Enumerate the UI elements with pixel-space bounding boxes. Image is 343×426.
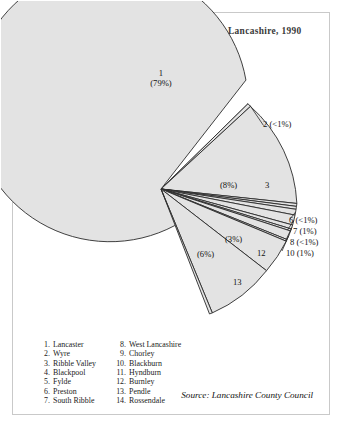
- pie-label-3-percent: (8%): [220, 181, 237, 191]
- legend-item-10: 10. Blackburn: [112, 359, 202, 368]
- legend-item-11: 11. Hyndburn: [112, 368, 202, 377]
- legend-item-6: 6. Preston: [36, 387, 114, 396]
- legend-item-8-label: West Lancashire: [129, 340, 181, 349]
- pie-chart-svg: [1, 1, 343, 341]
- legend-item-14-label: Rossendale: [129, 396, 165, 405]
- legend-item-6-label: Preston: [53, 387, 77, 396]
- legend-item-14-number: 14.: [112, 396, 129, 405]
- legend-item-11-number: 11.: [112, 368, 129, 377]
- legend-item-5-label: Fylde: [53, 377, 71, 386]
- legend-column-left: 1. Lancaster 2. Wyre 3. Ribble Valley 4.…: [36, 340, 114, 405]
- legend-item-1-number: 1.: [36, 340, 53, 349]
- pie-chart: 1 (79%) 2 (<1%) (8%) 3 6 (<1%) 7 (1%) 8 …: [1, 1, 343, 341]
- legend-item-5-number: 5.: [36, 377, 53, 386]
- legend-item-12-number: 12.: [112, 377, 129, 386]
- legend-item-3: 3. Ribble Valley: [36, 359, 114, 368]
- pie-label-8: 8 (<1%): [290, 238, 318, 248]
- pie-label-3-number: 3: [265, 181, 269, 191]
- legend-item-2-label: Wyre: [53, 349, 70, 358]
- pie-label-6: 6 (<1%): [289, 216, 317, 226]
- legend-item-13-number: 13.: [112, 387, 129, 396]
- legend-item-3-label: Ribble Valley: [53, 359, 96, 368]
- pie-slices: [1, 1, 297, 314]
- legend-item-9: 9. Chorley: [112, 349, 202, 358]
- legend-item-7-label: South Ribble: [53, 396, 94, 405]
- legend-item-11-label: Hyndburn: [129, 368, 161, 377]
- pie-label-13-percent: (6%): [197, 250, 214, 260]
- pie-label-12-number: 12: [257, 249, 266, 259]
- legend-item-10-label: Blackburn: [129, 359, 162, 368]
- legend-item-1-label: Lancaster: [53, 340, 84, 349]
- legend-item-2: 2. Wyre: [36, 349, 114, 358]
- pie-label-12-percent: (3%): [225, 235, 242, 245]
- legend-item-8: 8. West Lancashire: [112, 340, 202, 349]
- legend-item-10-number: 10.: [112, 359, 129, 368]
- legend-item-9-number: 9.: [112, 349, 129, 358]
- legend-item-4: 4. Blackpool: [36, 368, 114, 377]
- pie-label-10: 10 (1%): [286, 249, 314, 259]
- pie-label-1-percent: (79%): [139, 79, 183, 89]
- legend-item-7: 7. South Ribble: [36, 396, 114, 405]
- legend-item-12-label: Burnley: [129, 377, 154, 386]
- legend-item-8-number: 8.: [112, 340, 129, 349]
- pie-label-2: 2 (<1%): [263, 120, 291, 130]
- pie-label-13-number: 13: [233, 278, 242, 288]
- legend-item-6-number: 6.: [36, 387, 53, 396]
- legend-item-13-label: Pendle: [129, 387, 150, 396]
- legend-item-4-number: 4.: [36, 368, 53, 377]
- legend-item-4-label: Blackpool: [53, 368, 85, 377]
- legend-item-1: 1. Lancaster: [36, 340, 114, 349]
- legend-item-12: 12. Burnley: [112, 377, 202, 386]
- pie-label-1: 1 (79%): [139, 69, 183, 89]
- source-attribution: Source: Lancashire County Council: [181, 390, 313, 400]
- legend-item-9-label: Chorley: [129, 349, 154, 358]
- pie-label-7: 7 (1%): [293, 227, 317, 237]
- legend-item-5: 5. Fylde: [36, 377, 114, 386]
- legend-item-3-number: 3.: [36, 359, 53, 368]
- figure-frame: Figure 171. Rural Commons by District in…: [12, 12, 330, 415]
- legend-item-2-number: 2.: [36, 349, 53, 358]
- legend-item-7-number: 7.: [36, 396, 53, 405]
